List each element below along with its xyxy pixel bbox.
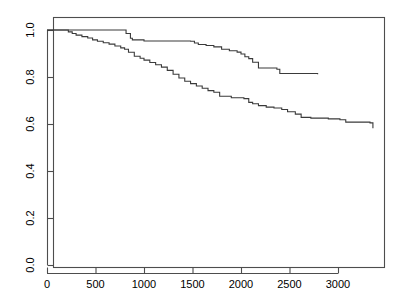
x-tick-label-500: 500 bbox=[86, 278, 104, 290]
x-tick-label-1500: 1500 bbox=[180, 278, 204, 290]
kaplan-meier-plot: 0.00.20.40.60.81.0 050010001500200025003… bbox=[0, 0, 408, 307]
y-tick-label-0.8: 0.8 bbox=[24, 69, 36, 84]
x-tick-label-0: 0 bbox=[44, 278, 50, 290]
y-tick-label-1.0: 1.0 bbox=[24, 22, 36, 37]
plot-background bbox=[0, 0, 408, 307]
x-tick-label-2000: 2000 bbox=[229, 278, 253, 290]
y-tick-label-0.2: 0.2 bbox=[24, 210, 36, 225]
y-tick-label-0.0: 0.0 bbox=[24, 257, 36, 272]
x-tick-label-2500: 2500 bbox=[277, 278, 301, 290]
x-tick-label-3000: 3000 bbox=[326, 278, 350, 290]
y-tick-label-0.4: 0.4 bbox=[24, 163, 36, 178]
plot-canvas: 0.00.20.40.60.81.0 050010001500200025003… bbox=[0, 0, 408, 307]
x-tick-label-1000: 1000 bbox=[132, 278, 156, 290]
y-tick-label-0.6: 0.6 bbox=[24, 116, 36, 131]
